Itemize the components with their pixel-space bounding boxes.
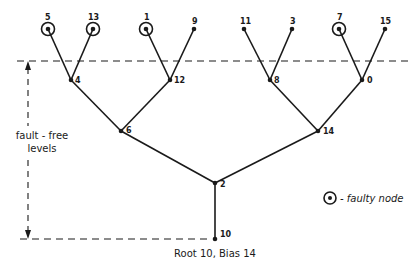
tree-node-7: 7 xyxy=(333,13,346,36)
tree-edge xyxy=(244,29,270,80)
node-label: 3 xyxy=(290,17,296,26)
arrow-down-icon xyxy=(25,230,31,239)
tree-edge xyxy=(121,80,170,131)
tree-node-6: 6 xyxy=(119,126,132,135)
tree-edge xyxy=(146,29,170,80)
node-dot-icon xyxy=(144,27,149,32)
node-label: 2 xyxy=(220,180,226,189)
tree-edge xyxy=(71,80,121,131)
node-label: 4 xyxy=(75,76,81,85)
node-dot-icon xyxy=(119,129,124,134)
node-label: 13 xyxy=(88,13,99,22)
node-label: 5 xyxy=(45,13,51,22)
legend-text: - faulty node xyxy=(340,193,404,204)
legend: - faulty node xyxy=(324,192,404,204)
tree-node-9: 9 xyxy=(192,17,198,31)
tree-edge xyxy=(270,80,318,131)
tree-edge xyxy=(362,29,385,80)
tree-node-5: 5 xyxy=(42,13,55,36)
tree-nodes: 5131911371541280614210 xyxy=(42,13,392,241)
tree-edge xyxy=(121,131,215,183)
node-label: 12 xyxy=(174,76,185,85)
tree-node-14: 14 xyxy=(316,127,335,136)
tree-node-15: 15 xyxy=(380,17,392,31)
node-dot-icon xyxy=(69,78,74,83)
node-label: 8 xyxy=(274,76,280,85)
root-caption: Root 10, Bias 14 xyxy=(174,248,256,259)
node-label: 10 xyxy=(220,230,232,239)
node-label: 0 xyxy=(367,76,373,85)
node-label: 7 xyxy=(337,13,343,22)
side-label-line1: fault - free xyxy=(16,130,68,141)
tree-edge xyxy=(318,80,362,131)
node-dot-icon xyxy=(383,27,388,32)
tree-node-1: 1 xyxy=(140,13,153,36)
tree-edge xyxy=(170,29,194,80)
node-dot-icon xyxy=(337,27,342,32)
node-dot-icon xyxy=(290,27,295,32)
tree-edge xyxy=(215,131,318,183)
tree-edge xyxy=(270,29,292,80)
node-label: 15 xyxy=(380,17,392,26)
node-dot-icon xyxy=(360,78,365,83)
tree-node-12: 12 xyxy=(168,76,185,85)
node-label: 1 xyxy=(144,13,150,22)
arrow-up-icon xyxy=(25,61,31,70)
node-dot-icon xyxy=(213,181,218,186)
tree-edge xyxy=(71,29,93,80)
node-dot-icon xyxy=(192,27,197,32)
node-dot-icon xyxy=(242,27,247,32)
tree-node-11: 11 xyxy=(240,17,252,31)
tree-node-3: 3 xyxy=(290,17,296,31)
node-label: 6 xyxy=(126,126,132,135)
node-dot-icon xyxy=(168,78,173,83)
node-label: 9 xyxy=(192,17,198,26)
tree-node-13: 13 xyxy=(87,13,100,36)
node-dot-icon xyxy=(213,237,218,242)
tree-diagram: fault - free levels 51319113715412806142… xyxy=(0,0,417,268)
tree-node-0: 0 xyxy=(360,76,373,85)
tree-edge xyxy=(339,29,362,80)
node-label: 11 xyxy=(240,17,252,26)
side-label-line2: levels xyxy=(28,143,57,154)
node-dot-icon xyxy=(268,78,273,83)
node-dot-icon xyxy=(46,27,51,32)
node-label: 14 xyxy=(323,127,335,136)
tree-edge xyxy=(48,29,71,80)
node-dot-icon xyxy=(316,129,321,134)
node-dot-icon xyxy=(91,27,96,32)
